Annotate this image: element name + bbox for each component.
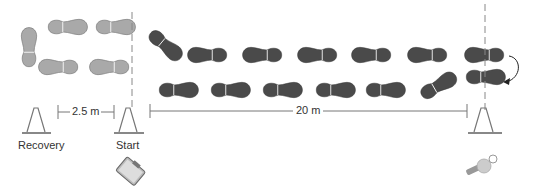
whistle-icon: [465, 155, 497, 176]
cone-icon: [114, 108, 144, 133]
run-footprints: [146, 27, 506, 102]
recovery-label: Recovery: [18, 139, 64, 151]
shuttle-run-diagram: 2.5 m 20 m Recovery Start: [0, 0, 542, 196]
recovery-footprints: [21, 19, 135, 74]
turn-arrow-icon: [506, 56, 518, 82]
run-distance-label: 20 m: [296, 104, 320, 116]
clipboard-icon: [116, 155, 147, 186]
start-label: Start: [116, 139, 139, 151]
diagram-canvas: [0, 0, 542, 196]
cone-icon: [468, 108, 502, 133]
cone-icon: [22, 108, 51, 133]
recovery-distance-label: 2.5 m: [72, 105, 100, 117]
